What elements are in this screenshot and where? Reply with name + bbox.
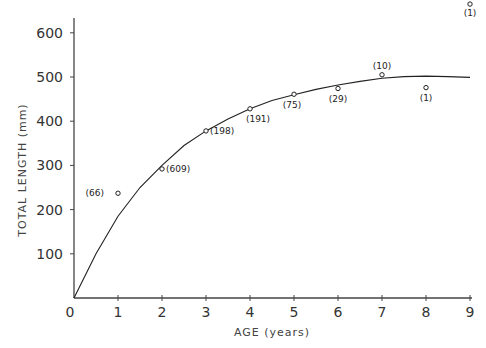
- data-point: [336, 86, 340, 90]
- sample-size-label: (609): [166, 164, 190, 174]
- data-point: [204, 129, 208, 133]
- growth-curve: [74, 76, 470, 298]
- sample-size-label: (10): [373, 61, 391, 71]
- sample-size-label: (75): [283, 100, 301, 110]
- y-tick-label: 300: [36, 157, 63, 173]
- x-tick-label: 2: [158, 304, 167, 320]
- x-tick-label: 8: [422, 304, 431, 320]
- y-tick-label: 100: [36, 246, 63, 262]
- x-axis-title: AGE (years): [234, 326, 310, 339]
- sample-size-label: (66): [86, 188, 104, 198]
- data-points: (66)(609)(198)(191)(75)(29)(10)(1)(1): [86, 2, 477, 198]
- x-tick-label: 6: [334, 304, 343, 320]
- data-point: [160, 167, 164, 171]
- x-tick-label: 3: [202, 304, 211, 320]
- data-point: [468, 2, 472, 6]
- x-tick-label: 9: [466, 304, 475, 320]
- sample-size-label: (198): [210, 126, 234, 136]
- growth-chart: 0123456789 100200300400500600 (66)(609)(…: [0, 0, 486, 348]
- data-point: [248, 107, 252, 111]
- y-tick-label: 500: [36, 69, 63, 85]
- sample-size-label: (1): [420, 93, 433, 103]
- x-tick-label: 4: [246, 304, 255, 320]
- x-tick-label: 5: [290, 304, 299, 320]
- y-tick-label: 200: [36, 202, 63, 218]
- axes: [74, 18, 472, 298]
- sample-size-label: (191): [246, 114, 270, 124]
- x-tick-label: 7: [378, 304, 387, 320]
- y-tick-label: 400: [36, 113, 63, 129]
- x-tick-label: 1: [114, 304, 123, 320]
- x-ticks: 0123456789: [66, 295, 475, 320]
- data-point: [292, 92, 296, 96]
- data-point: [116, 191, 120, 195]
- sample-size-label: (1): [464, 8, 477, 18]
- data-point: [424, 85, 428, 89]
- x-tick-label: 0: [66, 304, 75, 320]
- y-tick-label: 600: [36, 25, 63, 41]
- data-point: [380, 73, 384, 77]
- y-axis-title: TOTAL LENGTH (mm): [16, 103, 29, 237]
- y-ticks: 100200300400500600: [36, 25, 74, 262]
- sample-size-label: (29): [329, 94, 347, 104]
